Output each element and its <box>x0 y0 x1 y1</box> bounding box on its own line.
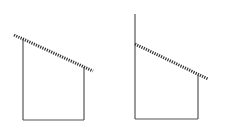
figure-left <box>14 35 93 120</box>
left-figure-hatched-slope <box>14 35 93 71</box>
diagram-canvas <box>0 0 227 128</box>
figure-right <box>135 14 208 119</box>
right-figure-hatched-slope <box>135 44 208 79</box>
